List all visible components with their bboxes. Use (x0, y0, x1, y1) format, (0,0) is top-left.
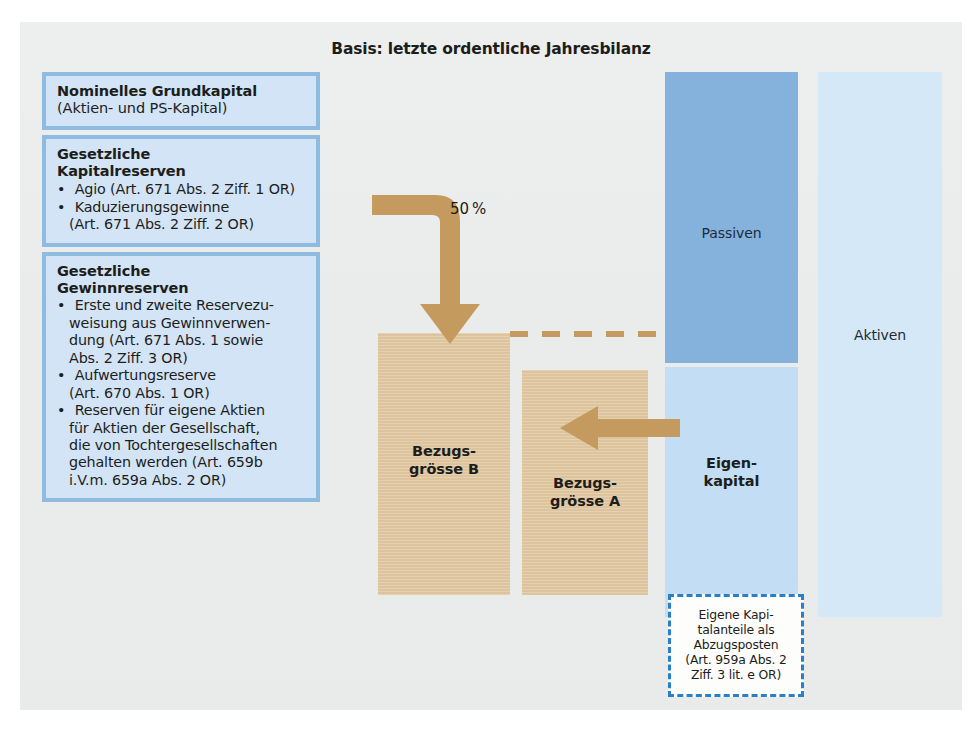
list-item-main: Reserven für eigene Aktien (75, 402, 265, 418)
bar-bezugsgroesse-b: Bezugs-grösse B (378, 333, 510, 595)
legal-reserves-stack: Nominelles Grundkapital (Aktien- und PS-… (42, 72, 320, 507)
column-label-eigenkapital: Eigen-kapital (665, 455, 798, 490)
diagram-title: Basis: letzte ordentliche Jahresbilanz (20, 40, 962, 58)
list-item: Kaduzierungsgewinne (Art. 671 Abs. 2 Zif… (57, 199, 307, 234)
box-list: Agio (Art. 671 Abs. 2 Ziff. 1 OR) Kaduzi… (57, 181, 307, 233)
list-item-cont: (Art. 671 Abs. 2 Ziff. 2 OR) (69, 216, 307, 233)
bar-label: Bezugs-grösse B (378, 443, 510, 478)
box-heading: GesetzlicheKapitalreserven (57, 146, 307, 180)
list-item-main: Erste und zweite Reservezu- (75, 297, 274, 313)
column-label-passiven: Passiven (665, 225, 798, 241)
left-arrow-icon (560, 404, 680, 452)
list-item-main: Agio (Art. 671 Abs. 2 Ziff. 1 OR) (75, 181, 295, 197)
list-item-main: Kaduzierungsgewinne (75, 199, 229, 215)
column-aktiven: Aktiven (818, 72, 942, 617)
list-item: Erste und zweite Reservezu- weisung aus … (57, 297, 307, 367)
bar-label: Bezugs-grösse A (522, 475, 648, 510)
box-gesetzliche-gewinnreserven: GesetzlicheGewinnreserven Erste und zwei… (42, 252, 320, 503)
column-eigenkapital: Eigen-kapital (665, 367, 798, 617)
list-item: Reserven für eigene Aktien für Aktien de… (57, 402, 307, 489)
list-item: Aufwertungsreserve (Art. 670 Abs. 1 OR) (57, 367, 307, 402)
list-item-cont: (Art. 670 Abs. 1 OR) (69, 385, 307, 402)
deduction-note-text: Eigene Kapi-talanteile alsAbzugsposten(A… (685, 608, 786, 682)
box-nominelles-grundkapital: Nominelles Grundkapital (Aktien- und PS-… (42, 72, 320, 130)
list-item-main: Aufwertungsreserve (75, 367, 216, 383)
diagram-board: Basis: letzte ordentliche Jahresbilanz N… (20, 22, 962, 710)
box-gesetzliche-kapitalreserven: GesetzlicheKapitalreserven Agio (Art. 67… (42, 135, 320, 246)
dashed-line-icon (510, 331, 670, 337)
box-inner: Nominelles Grundkapital (Aktien- und PS-… (46, 76, 316, 126)
box-inner: GesetzlicheKapitalreserven Agio (Art. 67… (46, 139, 316, 242)
percent-label: 50 % (450, 200, 486, 218)
deduction-callout: Eigene Kapi-talanteile alsAbzugsposten(A… (668, 594, 804, 697)
list-item-cont: weisung aus Gewinnverwen-dung (Art. 671 … (69, 315, 307, 367)
list-item-cont: für Aktien der Gesellschaft,die von Toch… (69, 420, 307, 490)
box-subtitle: (Aktien- und PS-Kapital) (57, 100, 307, 117)
box-heading: GesetzlicheGewinnreserven (57, 263, 307, 297)
column-passiven: Passiven (665, 72, 798, 363)
diagram-canvas: Basis: letzte ordentliche Jahresbilanz N… (0, 0, 980, 731)
list-item: Agio (Art. 671 Abs. 2 Ziff. 1 OR) (57, 181, 307, 198)
box-inner: GesetzlicheGewinnreserven Erste und zwei… (46, 256, 316, 499)
column-label-aktiven: Aktiven (818, 327, 942, 343)
box-list: Erste und zweite Reservezu- weisung aus … (57, 297, 307, 489)
box-heading: Nominelles Grundkapital (57, 83, 307, 100)
